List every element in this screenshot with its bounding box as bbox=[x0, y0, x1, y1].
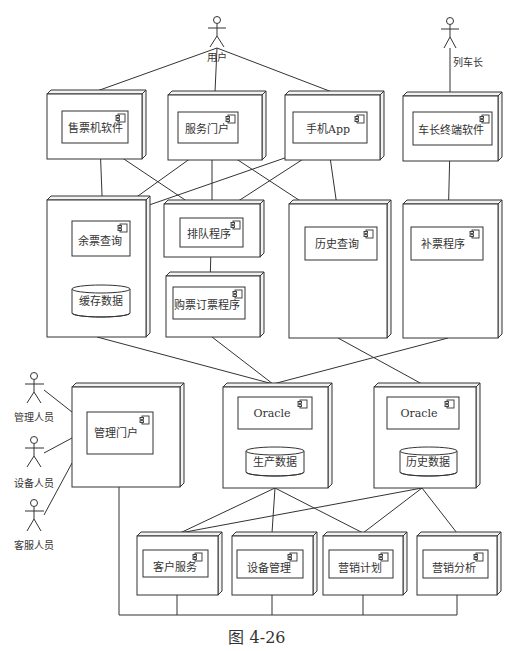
node-customer-service: 客户服务 bbox=[137, 532, 222, 595]
database-history: 历史数据 bbox=[400, 447, 457, 476]
component-booking-program: 购票订票程序 bbox=[173, 287, 245, 319]
component-label: Oracle bbox=[400, 407, 437, 420]
node-admin-portal: 管理门户 bbox=[72, 383, 184, 487]
component-label: 排队程序 bbox=[187, 227, 231, 241]
actor-label: 客服人员 bbox=[14, 539, 54, 551]
stick-figure-icon bbox=[441, 18, 459, 49]
component-service-portal: 服务门户 bbox=[178, 112, 238, 143]
actor-conductor: 列车长 bbox=[441, 18, 483, 68]
component-label: 营销分析 bbox=[432, 561, 476, 575]
component-queue-program: 排队程序 bbox=[180, 218, 243, 247]
component-mobile-app: 手机App bbox=[293, 112, 367, 143]
database-label: 缓存数据 bbox=[79, 294, 123, 308]
component-label: 营销计划 bbox=[338, 561, 382, 575]
component-label: 设备管理 bbox=[247, 561, 291, 575]
edge-booking-oracle1 bbox=[212, 337, 273, 384]
node-queue-program: 排队程序 bbox=[164, 200, 264, 257]
component-equipment-management: 设备管理 bbox=[237, 550, 303, 578]
component-label: 服务门户 bbox=[185, 122, 229, 136]
component-marketing-plan: 营销计划 bbox=[329, 550, 393, 578]
node-supplement-program: 补票程序 bbox=[403, 200, 502, 338]
actor-label: 管理人员 bbox=[14, 411, 54, 423]
edge-admin-portal bbox=[44, 390, 72, 412]
node-marketing-plan: 营销计划 bbox=[323, 532, 407, 595]
database-label: 生产数据 bbox=[253, 455, 297, 469]
component-conductor-terminal: 车长终端软件 bbox=[413, 112, 492, 145]
edge-oracle1-plan bbox=[275, 488, 363, 533]
edge-oracle2-analysis bbox=[422, 488, 457, 533]
component-marketing-analysis: 营销分析 bbox=[423, 550, 488, 578]
component-ticket-machine: 售票机软件 bbox=[62, 111, 128, 143]
component-history-query: 历史查询 bbox=[305, 227, 377, 260]
node-history-query: 历史查询 bbox=[289, 200, 391, 338]
edge-service-portal-staff bbox=[44, 463, 72, 515]
component-remaining-query: 余票查询 bbox=[72, 221, 130, 256]
component-label: 管理门户 bbox=[94, 426, 138, 440]
node-equipment-management: 设备管理 bbox=[232, 532, 317, 595]
actor-label: 列车长 bbox=[453, 56, 483, 68]
node-mobile-app: 手机App bbox=[285, 91, 384, 160]
component-label: 补票程序 bbox=[421, 237, 465, 251]
actor-admin: 管理人员 bbox=[14, 373, 54, 423]
edge-remaining-oracle1 bbox=[97, 337, 273, 384]
figure-caption: 图 4-26 bbox=[228, 628, 285, 647]
edge-equipment-portal bbox=[44, 438, 72, 453]
actor-label: 设备人员 bbox=[14, 477, 54, 489]
component-label: 历史查询 bbox=[315, 237, 359, 251]
stick-figure-icon bbox=[25, 437, 44, 468]
component-admin-portal: 管理门户 bbox=[87, 412, 153, 454]
edge-user-mobile-app bbox=[217, 48, 332, 92]
stick-figure-icon bbox=[208, 17, 226, 48]
component-label: Oracle bbox=[253, 407, 290, 420]
component-supplement-program: 补票程序 bbox=[411, 227, 483, 260]
actor-equipment: 设备人员 bbox=[14, 437, 54, 489]
database-production: 生产数据 bbox=[246, 447, 304, 476]
node-marketing-analysis: 营销分析 bbox=[417, 532, 501, 595]
node-booking-program: 购票订票程序 bbox=[166, 272, 264, 337]
node-conductor-terminal: 车长终端软件 bbox=[403, 92, 502, 161]
database-label: 历史数据 bbox=[406, 455, 450, 469]
edge-oracle1-customer bbox=[180, 488, 275, 533]
component-label: 客户服务 bbox=[153, 560, 197, 574]
node-oracle-history: Oracle 历史数据 bbox=[374, 383, 480, 488]
edge-history-oracle2 bbox=[338, 338, 422, 384]
component-oracle-history: Oracle bbox=[387, 397, 459, 429]
edge-oracle2-plan bbox=[363, 488, 422, 533]
database-cache: 缓存数据 bbox=[72, 285, 130, 317]
deployment-diagram: 用户 列车长 管理人员 设备人员 bbox=[0, 0, 518, 651]
component-label: 购票订票程序 bbox=[174, 298, 240, 312]
component-label: 手机App bbox=[306, 122, 350, 136]
edge-user-ticket-machine bbox=[97, 48, 217, 91]
node-service-portal: 服务门户 bbox=[168, 91, 266, 160]
actor-label: 用户 bbox=[207, 51, 227, 63]
stick-figure-icon bbox=[25, 500, 44, 532]
edge-supplement-oracle1 bbox=[273, 338, 448, 384]
edge-oracle1-equipment bbox=[272, 488, 275, 533]
actor-user: 用户 bbox=[207, 17, 227, 63]
component-customer-service: 客户服务 bbox=[143, 550, 208, 577]
edge-oracle2-customer bbox=[180, 488, 422, 533]
stick-figure-icon bbox=[25, 373, 44, 404]
node-oracle-production: Oracle 生产数据 bbox=[223, 383, 332, 488]
component-label: 车长终端软件 bbox=[418, 123, 484, 137]
component-label: 余票查询 bbox=[78, 234, 122, 248]
node-ticket-machine: 售票机软件 bbox=[47, 90, 146, 159]
component-oracle-production: Oracle bbox=[238, 397, 312, 429]
component-label: 售票机软件 bbox=[68, 121, 123, 135]
node-remaining-query: 余票查询 缓存数据 bbox=[47, 196, 150, 337]
